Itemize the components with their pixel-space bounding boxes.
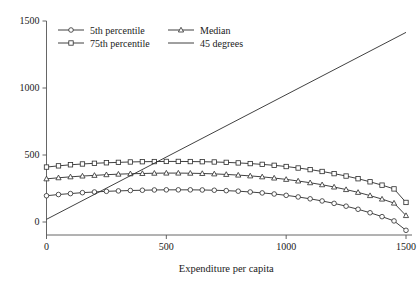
data-point-circle-marker [380,214,385,219]
data-point-circle-marker [104,189,109,194]
y-tick-label: 1000 [20,82,40,93]
axes-group: 050010001500 050010001500 [20,15,417,252]
series-polyline [47,161,407,202]
data-point-circle-marker [236,189,241,194]
data-point-square-marker [212,160,216,164]
data-point-circle-marker [272,192,277,197]
data-point-square-marker [284,164,288,168]
y-tick-label: 0 [35,216,40,227]
data-point-circle-marker [80,190,85,195]
data-point-square-marker [80,162,84,166]
data-point-circle-marker [392,219,397,224]
data-point-square-marker [308,167,312,171]
data-point-square-marker [140,160,144,164]
data-point-circle-marker [152,188,157,193]
data-point-circle-marker [260,191,265,196]
data-point-circle-marker [212,188,217,193]
legend-item-median[interactable]: Median [168,25,231,36]
data-point-square-marker [104,161,108,165]
data-point-circle-marker [356,207,361,212]
legend-item-5th-percentile[interactable]: 5th percentile [58,25,145,36]
data-point-square-marker [92,161,96,165]
data-point-square-marker [260,162,264,166]
data-point-circle-marker [296,195,301,200]
data-point-square-marker [176,159,180,163]
data-point-square-marker [68,163,72,167]
data-point-square-marker [356,177,360,181]
data-point-circle-marker [320,199,325,204]
data-point-square-marker [380,183,384,187]
legend-item-label: 45 degrees [200,38,243,49]
data-point-square-marker [200,160,204,164]
chart-canvas: 050010001500 050010001500 5th percentile… [0,0,419,286]
legend-item-45-degrees[interactable]: 45 degrees [168,38,243,49]
data-point-square-marker [392,187,396,191]
data-point-circle-marker [344,204,349,209]
data-point-circle-marker [176,188,181,193]
data-point-square-marker [116,160,120,164]
x-axis-title: Expenditure per capita [179,263,274,274]
data-point-square-marker [272,163,276,167]
data-point-circle-marker [284,193,289,198]
y-tick-label: 500 [25,149,40,160]
data-point-circle-marker [128,188,133,193]
chart-legend: 5th percentileMedian75th percentile45 de… [58,25,243,49]
data-point-circle-marker [368,210,373,215]
x-tick-label: 500 [159,241,174,252]
y-tick-label: 1500 [20,15,40,26]
data-point-square-marker [224,160,228,164]
data-series-group [44,159,409,232]
series-75th-percentile [44,159,408,204]
data-point-square-marker [164,159,168,163]
chart-figure: 050010001500 050010001500 5th percentile… [0,0,419,286]
data-point-circle-marker [248,190,253,195]
data-point-circle-marker [116,189,121,194]
legend-item-label: 75th percentile [90,38,150,49]
data-point-circle-marker [56,192,61,197]
data-point-square-marker [188,159,192,163]
x-axis-ticks: 050010001500 [44,235,416,252]
data-point-square-marker [128,160,132,164]
data-point-square-marker [320,169,324,173]
legend-item-label: 5th percentile [90,25,145,36]
data-point-square-marker [368,180,372,184]
x-tick-label: 1000 [276,241,296,252]
data-point-circle-marker [188,188,193,193]
x-tick-label: 1500 [396,241,416,252]
series-5th-percentile [44,188,408,233]
series-polyline [47,173,407,215]
data-point-square-marker [248,161,252,165]
data-point-circle-marker [224,188,229,193]
data-point-square-marker [332,171,336,175]
data-point-square-marker [236,161,240,165]
data-point-square-marker [344,174,348,178]
series-polyline [47,190,407,230]
legend-item-75th-percentile[interactable]: 75th percentile [58,38,150,49]
data-point-square-marker [44,165,48,169]
data-point-square-marker [56,164,60,168]
data-point-circle-marker [200,188,205,193]
data-point-circle-marker [44,193,49,198]
data-point-circle-marker [68,191,73,196]
y-axis-ticks: 050010001500 [20,15,47,227]
x-tick-label: 0 [44,241,49,252]
legend-item-label: Median [200,25,231,36]
data-point-circle-marker [164,188,169,193]
data-point-square-marker [296,166,300,170]
data-point-square-marker [69,41,73,45]
data-point-circle-marker [140,188,145,193]
data-point-square-marker [404,200,408,204]
data-point-circle-marker [308,197,313,202]
data-point-circle-marker [332,201,337,206]
data-point-circle-marker [404,228,409,233]
data-point-circle-marker [69,28,74,33]
